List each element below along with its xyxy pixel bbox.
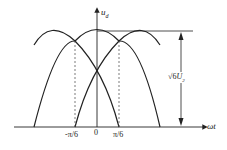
dimension-arrow-down-icon: [179, 118, 184, 126]
dimension-arrow-up-icon: [179, 32, 184, 40]
amplitude-label: √6U2: [168, 72, 185, 83]
x-axis-label: ωt: [207, 121, 216, 131]
waveform-right: [75, 30, 160, 127]
waveform-left: [34, 30, 119, 127]
tick-zero: 0: [94, 128, 98, 137]
tick-pi6: π/6: [113, 130, 123, 139]
tick-neg-pi6: -π/6: [65, 130, 78, 139]
y-axis-label: ud: [101, 7, 109, 19]
waveform-diagram: [0, 0, 227, 150]
